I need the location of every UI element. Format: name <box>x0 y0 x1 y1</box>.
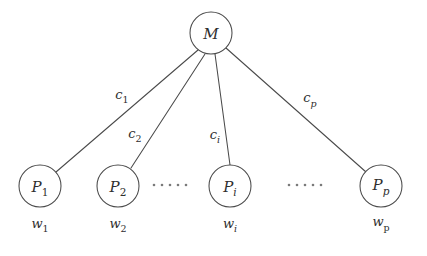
edge-label-c1-subscript: 1 <box>123 94 129 105</box>
weight-label-wp-subscript: p <box>384 222 390 233</box>
node-link-diagram: M P1 P2 Pi Pp c1 c2 ci cp <box>0 0 427 256</box>
ellipsis-dot <box>312 184 315 187</box>
edge-label-ci-subscript: i <box>217 134 220 145</box>
edge-label-c2-subscript: 2 <box>136 133 142 144</box>
ellipsis-dot <box>161 184 164 187</box>
node-p1-subscript: 1 <box>42 186 49 198</box>
node-pi[interactable]: Pi <box>209 165 251 207</box>
weight-label-wi-subscript: i <box>234 223 237 234</box>
weight-label-w1-subscript: 1 <box>43 223 49 234</box>
ellipsis-dot <box>153 184 156 187</box>
ellipsis-between-p2-pi <box>153 184 188 187</box>
edge-label-ci: ci <box>210 127 220 145</box>
edge-group <box>56 48 366 172</box>
node-p2-subscript: 2 <box>120 186 127 198</box>
edge-m-to-pi <box>215 54 230 165</box>
edge-label-cp: cp <box>303 90 316 109</box>
edge-label-c2: c2 <box>128 126 141 144</box>
diagram-canvas: M P1 P2 Pi Pp c1 c2 ci cp <box>0 0 427 256</box>
edge-m-to-p1 <box>56 50 198 172</box>
node-pp-subscript: p <box>383 185 390 197</box>
edge-m-to-p2 <box>131 54 205 168</box>
ellipsis-dot <box>296 184 299 187</box>
edge-label-c1: c1 <box>115 87 128 105</box>
ellipsis-dot <box>304 184 307 187</box>
weight-label-w1: w1 <box>31 216 48 234</box>
weight-label-wi: wi <box>223 216 237 234</box>
weight-label-w2-subscript: 2 <box>121 223 127 234</box>
weight-label-wp: wp <box>372 214 389 233</box>
ellipsis-dot <box>177 184 180 187</box>
node-pi-subscript: i <box>233 186 236 198</box>
edge-m-to-pp <box>226 48 366 172</box>
node-p2[interactable]: P2 <box>97 165 139 207</box>
node-m-label: M <box>202 25 219 43</box>
weight-label-w2: w2 <box>109 216 126 234</box>
node-p1[interactable]: P1 <box>19 165 61 207</box>
node-pp[interactable]: Pp <box>360 165 402 207</box>
node-m[interactable]: M <box>190 12 232 54</box>
ellipsis-between-pi-pp <box>288 184 323 187</box>
weight-label-group: w1 w2 wi wp <box>31 214 389 234</box>
ellipsis-dot <box>288 184 291 187</box>
edge-label-cp-subscript: p <box>311 98 317 109</box>
ellipsis-dot <box>169 184 172 187</box>
ellipsis-dot <box>320 184 323 187</box>
ellipsis-dot <box>185 184 188 187</box>
